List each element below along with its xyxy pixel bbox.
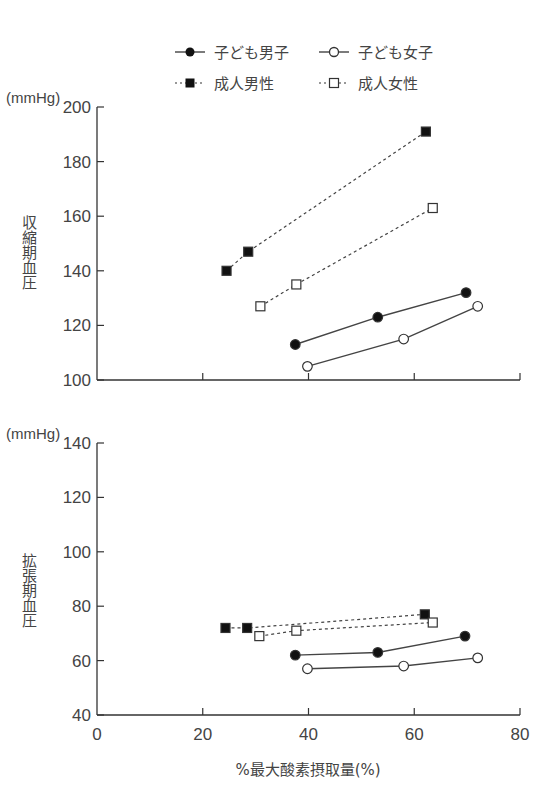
data-point — [399, 334, 409, 344]
data-point — [222, 266, 231, 275]
bottom-y-axis-title: 拡張期血圧 — [19, 553, 37, 628]
filled-circle-icon — [186, 48, 195, 57]
bottom-unit-label: (mmHg) — [6, 425, 60, 442]
legend-label: 成人男性 — [214, 75, 274, 93]
x-tick-label: 80 — [511, 725, 530, 744]
data-point — [373, 648, 383, 658]
data-point — [373, 312, 383, 322]
legend-item-boys: 子ども男子 — [175, 44, 289, 62]
data-point — [221, 623, 230, 632]
x-tick-label: 40 — [299, 725, 318, 744]
open-circle-icon — [330, 48, 339, 57]
y-tick-label: 160 — [63, 207, 91, 226]
data-point — [292, 280, 301, 289]
data-point — [428, 618, 437, 627]
x-tick-label: 20 — [193, 725, 212, 744]
y-tick-label: 140 — [63, 262, 91, 281]
data-point — [255, 632, 264, 641]
bottom-series — [221, 610, 483, 674]
x-tick-label: 0 — [92, 725, 101, 744]
legend-label: 成人女性 — [358, 75, 418, 93]
y-tick-label: 100 — [63, 371, 91, 390]
bottom-x-ticks: 020406080 — [92, 708, 529, 744]
data-point — [421, 127, 430, 136]
bottom-panel: (mmHg) 拡張期血圧 406080100120140 020406080 — [6, 425, 529, 744]
top-y-ticks: 100120140160180200 — [63, 98, 104, 390]
legend-label: 子ども女子 — [358, 44, 433, 62]
legend-label: 子ども男子 — [214, 44, 289, 62]
data-point — [428, 204, 437, 213]
filled-square-icon — [186, 79, 195, 88]
data-point — [244, 247, 253, 256]
data-point — [461, 288, 471, 298]
x-axis-title: %最大酸素摂取量(%) — [235, 761, 380, 779]
y-tick-label: 120 — [63, 488, 91, 507]
data-point — [290, 340, 300, 350]
data-point — [243, 623, 252, 632]
series-0 — [290, 631, 469, 660]
series-3 — [255, 618, 437, 641]
series-1 — [303, 301, 483, 371]
x-tick-label: 60 — [405, 725, 424, 744]
bottom-y-ticks: 406080100120140 — [63, 434, 104, 725]
y-tick-label: 40 — [72, 706, 91, 725]
data-point — [473, 653, 483, 663]
legend-item-girls: 子ども女子 — [319, 44, 433, 62]
top-y-axis-title: 収縮期血圧 — [19, 215, 37, 290]
data-point — [303, 664, 313, 674]
series-3 — [256, 204, 437, 311]
top-unit-label: (mmHg) — [6, 89, 60, 106]
open-square-icon — [330, 79, 339, 88]
series-2 — [222, 127, 430, 275]
y-tick-label: 200 — [63, 98, 91, 117]
data-point — [303, 362, 313, 372]
y-tick-label: 120 — [63, 316, 91, 335]
top-series — [222, 127, 482, 371]
series-0 — [290, 288, 470, 349]
data-point — [473, 301, 483, 311]
legend-item-adult-men: 成人男性 — [175, 75, 274, 93]
y-tick-label: 100 — [63, 543, 91, 562]
top-panel: (mmHg) 収縮期血圧 100120140160180200 — [6, 89, 520, 390]
blood-pressure-chart: 子ども男子 子ども女子 成人男性 成人女性 (mmHg) 収縮期血圧 10012… — [0, 0, 552, 794]
legend: 子ども男子 子ども女子 成人男性 成人女性 — [175, 44, 433, 93]
data-point — [290, 650, 300, 660]
y-tick-label: 80 — [72, 597, 91, 616]
series-1 — [303, 653, 483, 673]
y-tick-label: 180 — [63, 153, 91, 172]
legend-item-adult-women: 成人女性 — [319, 75, 418, 93]
y-tick-label: 60 — [72, 652, 91, 671]
y-tick-label: 140 — [63, 434, 91, 453]
top-x-ticks — [203, 373, 520, 380]
data-point — [399, 661, 409, 671]
data-point — [460, 631, 470, 641]
data-point — [256, 302, 265, 311]
data-point — [292, 626, 301, 635]
